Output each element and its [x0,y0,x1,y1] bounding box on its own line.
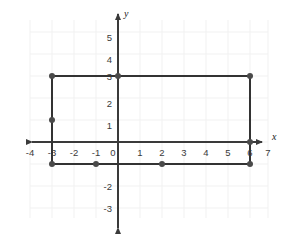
y-tick-label: -2 [104,181,112,192]
coordinate-plane-figure: -4 -3 -2 -1 0 1 2 3 4 5 6 7 5 4 3 2 1 -2… [0,0,297,240]
y-tick-label: 2 [107,98,112,109]
point-right-edge-x-axis [247,139,253,145]
point-bottom-edge-a [93,161,99,167]
x-tick-labels: -4 -3 -2 -1 0 1 2 3 4 5 6 7 [26,147,271,158]
x-tick-label: 7 [265,147,270,158]
y-tick-label: -3 [104,203,112,214]
point-left-edge-mid [49,117,55,123]
point-bottom-edge-b [159,161,165,167]
x-tick-label: -1 [92,147,100,158]
x-tick-label: 4 [203,147,208,158]
x-tick-label: -3 [48,147,56,158]
point-vertex-bottom-right [247,161,253,167]
x-axis-label: x [271,131,277,142]
y-tick-label: 3 [107,71,112,82]
grid-lines [30,20,268,218]
x-tick-label: 5 [225,147,230,158]
y-tick-labels: 5 4 3 2 1 -2 -3 [104,32,112,214]
point-top-y-axis [115,73,121,79]
y-tick-label: 4 [107,54,112,65]
graph-canvas: -4 -3 -2 -1 0 1 2 3 4 5 6 7 5 4 3 2 1 -2… [0,0,297,240]
x-tick-label: 6 [247,147,252,158]
x-tick-label: 3 [181,147,186,158]
point-vertex-top-left [49,73,55,79]
y-axis-label: y [123,8,129,19]
point-vertex-bottom-left [49,161,55,167]
x-tick-label: 0 [110,147,115,158]
y-tick-label: 1 [107,120,112,131]
y-tick-label: 5 [107,32,112,43]
x-tick-label: 1 [137,147,142,158]
point-vertex-top-right [247,73,253,79]
x-tick-label: 2 [159,147,164,158]
x-tick-label: -4 [26,147,34,158]
x-tick-label: -2 [70,147,78,158]
